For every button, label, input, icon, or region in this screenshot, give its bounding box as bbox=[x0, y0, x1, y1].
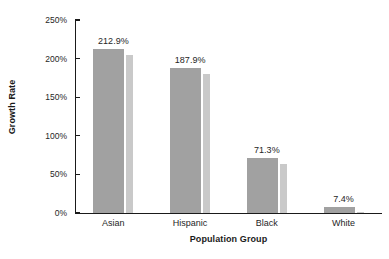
bar-body bbox=[170, 68, 201, 213]
bar-white[interactable] bbox=[324, 207, 364, 213]
bar-value-label: 212.9% bbox=[83, 36, 143, 46]
bar-shadow bbox=[280, 164, 287, 213]
bar-black[interactable] bbox=[247, 158, 287, 213]
x-axis-label-black: Black bbox=[229, 218, 305, 228]
bar-asian[interactable] bbox=[93, 49, 133, 213]
bar-hispanic[interactable] bbox=[170, 68, 210, 213]
bar-body bbox=[247, 158, 278, 213]
bar-shadow bbox=[203, 74, 210, 213]
bar-chart: Growth Rate 0%50%100%150%200%250% AsianH… bbox=[0, 0, 389, 259]
x-axis-label-white: White bbox=[306, 218, 382, 228]
bar-body bbox=[93, 49, 124, 213]
x-axis-title: Population Group bbox=[75, 234, 382, 244]
bar-value-label: 187.9% bbox=[160, 55, 220, 65]
bar-shadow bbox=[126, 55, 133, 213]
bar-value-label: 71.3% bbox=[237, 145, 297, 155]
bar-body bbox=[324, 207, 355, 213]
bar-value-label: 7.4% bbox=[314, 194, 374, 204]
x-axis-label-hispanic: Hispanic bbox=[152, 218, 228, 228]
x-axis-label-asian: Asian bbox=[75, 218, 151, 228]
bar-shadow bbox=[357, 212, 364, 213]
